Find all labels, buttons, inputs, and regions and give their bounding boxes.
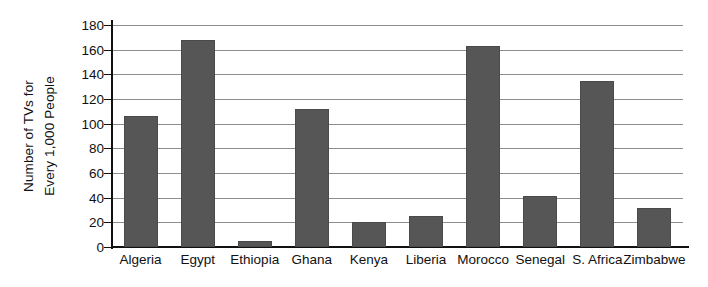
y-axis-tick-label: 40: [58, 190, 104, 205]
y-axis-tick-label: 80: [58, 141, 104, 156]
y-axis-tick-label: 160: [58, 42, 104, 57]
plot-area: [112, 25, 683, 247]
y-axis-tick-labels: 020406080100120140160180: [50, 0, 104, 287]
x-axis-category-label: Zimbabwe: [623, 252, 685, 267]
bar: [295, 109, 329, 247]
y-axis-tick-label: 20: [58, 215, 104, 230]
bar: [637, 208, 671, 247]
bar: [181, 40, 215, 247]
x-axis-category-label: Egypt: [180, 252, 215, 267]
bar: [352, 222, 386, 247]
bar: [466, 46, 500, 247]
x-axis-category-label: Liberia: [406, 252, 447, 267]
bar-slot: [512, 25, 569, 247]
x-axis-category-label: Senegal: [515, 252, 565, 267]
y-axis-tick-label: 180: [58, 18, 104, 33]
bars-layer: [112, 25, 683, 247]
bar-slot: [169, 25, 226, 247]
y-axis-tick-label: 0: [58, 240, 104, 255]
bar-chart: Number of TVs for Every 1,000 People 020…: [0, 0, 708, 287]
bar: [238, 241, 272, 247]
x-axis-category-label: Ethiopia: [230, 252, 279, 267]
bar-slot: [569, 25, 626, 247]
x-axis-category-labels: AlgeriaEgyptEthiopiaGhanaKenyaLiberiaMor…: [112, 252, 683, 280]
bar-slot: [626, 25, 683, 247]
bar-slot: [398, 25, 455, 247]
bar: [409, 216, 443, 247]
bar-slot: [112, 25, 169, 247]
bar: [523, 196, 557, 247]
bar: [124, 116, 158, 247]
x-axis-category-label: Algeria: [120, 252, 162, 267]
x-axis-category-label: S. Africa: [572, 252, 622, 267]
bar-slot: [455, 25, 512, 247]
y-axis-tick-label: 120: [58, 92, 104, 107]
bar-slot: [226, 25, 283, 247]
bar-slot: [340, 25, 397, 247]
bar-slot: [283, 25, 340, 247]
y-axis-tick-label: 60: [58, 166, 104, 181]
x-axis-category-label: Morocco: [457, 252, 509, 267]
x-axis-category-label: Ghana: [292, 252, 333, 267]
bar: [580, 81, 614, 248]
y-axis-tick-label: 100: [58, 116, 104, 131]
y-axis-tick-label: 140: [58, 67, 104, 82]
y-axis-title-line-1: Number of TVs for: [21, 80, 38, 192]
x-axis-category-label: Kenya: [350, 252, 388, 267]
